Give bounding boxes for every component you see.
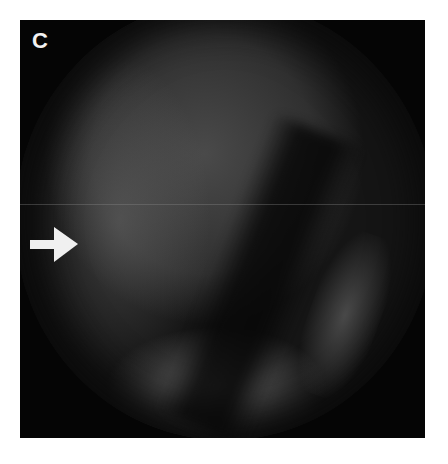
scan-line (20, 204, 425, 205)
panel-label: C (32, 30, 48, 52)
image-panel: C (20, 20, 425, 438)
arrow-right-icon (30, 225, 80, 265)
